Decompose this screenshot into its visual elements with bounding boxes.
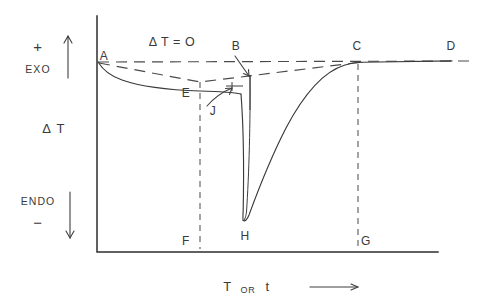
point-label-A: A [100,49,109,63]
y-axis-label: Δ T [42,121,66,136]
x-axis-label-t: t [265,279,270,294]
point-label-B: B [232,39,241,53]
point-label-G: G [361,234,371,248]
point-label-E: E [182,86,191,100]
point-label-F: F [182,234,190,248]
endo-text-label: ENDO [21,195,56,207]
endo-sign-label: − [33,214,42,231]
b-arrow-shaft [235,56,249,76]
curve-recovery-limb [243,62,362,220]
point-label-J: J [210,104,217,118]
point-label-H: H [240,229,249,243]
zero-baseline-annotation: Δ T = O [149,35,196,49]
constructed-baseline-dashed [99,62,362,82]
exo-text-label: EXO [25,63,50,75]
point-label-D: D [446,39,455,53]
exo-sign-label: + [33,38,42,55]
curve-endotherm-descent [241,94,243,221]
dta-figure: + EXO Δ T ENDO − Δ T = O A B C D E F G H… [0,0,481,306]
x-axis-label-or: OR [240,285,255,295]
point-label-C: C [352,39,361,53]
peak-inner-wall [244,75,250,221]
dta-diagram: + EXO Δ T ENDO − Δ T = O A B C D E F G H… [0,0,481,306]
axis-lines [97,16,438,252]
x-axis-label-T: T [223,279,232,294]
